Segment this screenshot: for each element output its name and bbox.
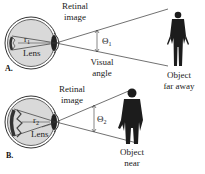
- panel-b-lens-label: Lens: [31, 130, 49, 139]
- visual-angle-line1: Visual: [84, 58, 120, 67]
- panel-b-eye: [5, 96, 59, 148]
- theta-subscript: 1: [109, 41, 112, 47]
- object-label-line2: near: [114, 159, 150, 168]
- panel-b-person-silhouette: [118, 89, 143, 145]
- radius-subscript: 1: [27, 39, 30, 45]
- panel-b-letter: B.: [6, 151, 13, 160]
- visual-angle-diagram: Retinal image r1 Lens A. Θ1 Visual angle…: [0, 0, 205, 174]
- object-label-line2: far away: [157, 82, 201, 91]
- panel-a-angle-label: Θ1: [102, 37, 112, 49]
- radius-subscript: 2: [36, 120, 39, 126]
- panel-b-radius-label: r2: [33, 116, 39, 128]
- retinal-label-line1: Retinal: [52, 85, 92, 94]
- panel-a-person-silhouette: [167, 12, 189, 66]
- panel-b-object-label: Object near: [114, 148, 150, 168]
- visual-angle-line2: angle: [84, 69, 120, 78]
- retinal-label-line2: image: [52, 96, 92, 105]
- panel-a-object-label: Object far away: [157, 71, 201, 91]
- panel-a-lens-label: Lens: [23, 49, 41, 58]
- object-label-line1: Object: [114, 148, 150, 157]
- panel-a-retinal-image-label: Retinal image: [55, 2, 95, 22]
- retinal-label-line2: image: [55, 13, 95, 22]
- theta-subscript: 2: [104, 119, 107, 125]
- panel-a-radius-label: r1: [24, 35, 30, 47]
- retinal-label-line1: Retinal: [55, 2, 95, 11]
- panel-b-angle-label: Θ2: [97, 115, 107, 127]
- panel-a-visual-angle-label: Visual angle: [84, 58, 120, 78]
- panel-a-eye: [5, 17, 59, 69]
- object-label-line1: Object: [157, 71, 201, 80]
- panel-a-letter: A.: [5, 64, 13, 73]
- panel-b-retinal-image-label: Retinal image: [52, 85, 92, 105]
